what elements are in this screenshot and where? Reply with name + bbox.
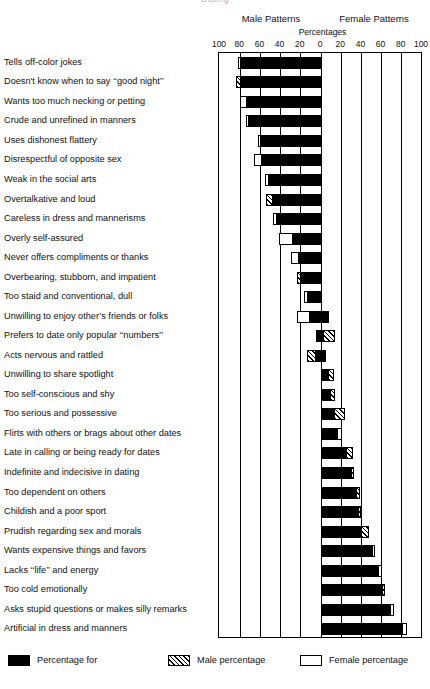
bar-row <box>219 406 421 422</box>
legend-item: Percentage for <box>8 651 97 669</box>
category-label: Unwilling to share spotlight <box>4 366 212 382</box>
bar-segment-percentage-for <box>277 213 321 225</box>
bar-segment-female-percentage <box>402 623 407 635</box>
bar-row <box>219 582 421 598</box>
bar-segment-female-percentage <box>304 291 308 303</box>
bar-segment-percentage-for <box>316 350 326 362</box>
category-label: Tells off-color jokes <box>4 54 212 70</box>
bar-segment-female-percentage <box>297 311 310 323</box>
bar-row <box>219 55 421 71</box>
chart-title-clipped: Dating <box>0 0 430 9</box>
bar-segment-male-percentage <box>358 506 361 518</box>
bar-row <box>219 485 421 501</box>
bar-row <box>219 133 421 149</box>
bar-segment-male-percentage <box>356 487 360 499</box>
bar-segment-percentage-for <box>247 96 321 108</box>
category-label: Prefers to date only popular ‘‘numbers’’ <box>4 327 212 343</box>
bar-segment-percentage-for <box>321 428 337 440</box>
bar-segment-male-percentage <box>236 76 241 88</box>
bar-row <box>219 621 421 637</box>
bar-segment-percentage-for <box>321 565 378 577</box>
bar-segment-percentage-for <box>273 194 321 206</box>
category-label: Too dependent on others <box>4 484 212 500</box>
bar-segment-percentage-for <box>293 233 321 245</box>
bar-segment-percentage-for <box>321 467 351 479</box>
bar-segment-percentage-for <box>301 272 321 284</box>
x-tick-0-zero: 0 <box>309 39 331 49</box>
category-label: Wants too much necking or petting <box>4 93 212 109</box>
bar-row <box>219 250 421 266</box>
bar-segment-percentage-for <box>262 154 321 166</box>
bar-segment-male-percentage <box>330 389 335 401</box>
bar-segment-female-percentage <box>238 57 241 69</box>
chart-plot-area <box>218 52 422 638</box>
bar-segment-percentage-for <box>249 115 321 127</box>
category-label: Overbearing, stubborn, and impatient <box>4 269 212 285</box>
bar-row <box>219 465 421 481</box>
bar-row <box>219 563 421 579</box>
bar-segment-percentage-for <box>299 252 321 264</box>
legend-label: Percentage for <box>37 655 97 665</box>
category-label: Indefinite and indecisive in dating <box>4 464 212 480</box>
percentages-axis-label: Percentages <box>219 27 426 37</box>
category-label: Never offers compliments or thanks <box>4 249 212 265</box>
x-tick-80-female: 80 <box>390 39 412 49</box>
bar-row <box>219 543 421 559</box>
category-label: Overtalkative and loud <box>4 191 212 207</box>
bar-row <box>219 309 421 325</box>
bar-segment-percentage-for <box>260 135 321 147</box>
chart-title: Dating <box>0 0 430 4</box>
bar-row <box>219 192 421 208</box>
category-label: Too self-conscious and shy <box>4 386 212 402</box>
category-label: Childish and a poor sport <box>4 503 212 519</box>
category-label: Careless in dress and mannerisms <box>4 210 212 226</box>
x-axis-tick-labels: 10080604020020406080100 <box>0 39 430 51</box>
category-label: Late in calling or being ready for dates <box>4 444 212 460</box>
category-label: Overly self-assured <box>4 230 212 246</box>
bar-row <box>219 74 421 90</box>
female-patterns-heading: Female Patterns <box>322 13 426 24</box>
x-tick-100-female: 100 <box>410 39 430 49</box>
category-label: Artificial in dress and manners <box>4 620 212 636</box>
bar-segment-male-percentage <box>307 350 316 362</box>
category-label: Prudish regarding sex and morals <box>4 523 212 539</box>
bar-segment-male-percentage <box>334 408 345 420</box>
bar-segment-female-percentage <box>265 174 269 186</box>
bar-row <box>219 387 421 403</box>
bar-segment-female-percentage <box>258 135 261 147</box>
bar-segment-percentage-for <box>321 369 328 381</box>
bar-row <box>219 328 421 344</box>
bar-segment-female-percentage <box>390 604 394 616</box>
category-label: Uses dishonest flattery <box>4 132 212 148</box>
legend-item: Female percentage <box>300 651 408 669</box>
bar-row <box>219 348 421 364</box>
bar-segment-female-percentage <box>372 545 375 557</box>
legend-item: Male percentage <box>168 651 265 669</box>
bar-row <box>219 504 421 520</box>
category-label: Doesn't know when to say ‘‘good night’’ <box>4 73 212 89</box>
x-tick-60-male: 60 <box>248 39 270 49</box>
bar-segment-percentage-for <box>241 76 321 88</box>
category-label: Weak in the social arts <box>4 171 212 187</box>
x-tick-40-male: 40 <box>269 39 291 49</box>
bar-segment-percentage-for <box>321 506 358 518</box>
bar-segment-male-percentage <box>297 272 301 284</box>
bar-segment-percentage-for <box>308 291 321 303</box>
bar-rows <box>219 53 421 637</box>
bar-row <box>219 426 421 442</box>
bar-segment-percentage-for <box>321 545 372 557</box>
category-label: Disrespectful of opposite sex <box>4 151 212 167</box>
bar-segment-female-percentage <box>378 565 382 577</box>
legend-swatch-black <box>8 655 30 666</box>
legend-swatch-hatch <box>168 655 190 666</box>
bar-segment-percentage-for <box>269 174 321 186</box>
bar-segment-percentage-for <box>321 584 382 596</box>
bar-segment-percentage-for <box>321 389 330 401</box>
category-label: Acts nervous and rattled <box>4 347 212 363</box>
bar-segment-male-percentage <box>382 584 385 596</box>
x-tick-60-female: 60 <box>370 39 392 49</box>
bar-segment-percentage-for <box>316 330 323 342</box>
bar-segment-male-percentage <box>266 194 272 206</box>
bar-row <box>219 367 421 383</box>
bar-segment-percentage-for <box>240 57 321 69</box>
